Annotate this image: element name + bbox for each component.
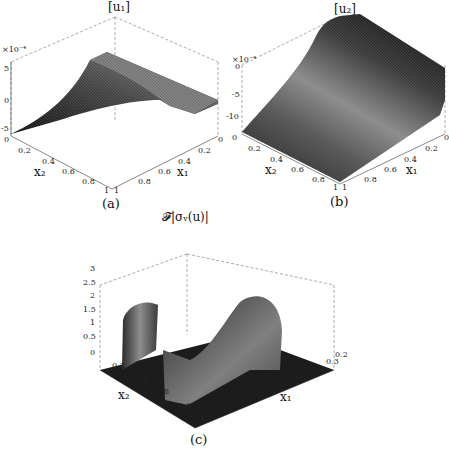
plot-c-x2-label: x₂ [118, 388, 130, 402]
plot-c-x1-tick: 0.4 [312, 365, 325, 374]
plot-c-z-tick: 2.5 [83, 278, 96, 287]
plot-a-x2-tick: 0.8 [82, 177, 95, 186]
plot-c-z-tick: 2 [90, 291, 95, 300]
plot-c-x1-tick: 0.7 [260, 386, 273, 395]
plot-b-x1-tick: 0.6 [384, 165, 397, 174]
plot-c-z-tick: 3 [90, 264, 95, 273]
plot-a-x1-tick: 0.6 [158, 167, 171, 176]
plot-c-title: 𝓕|σᵥ(u)| [162, 210, 209, 224]
plot-b-x2-label: x₂ [265, 163, 277, 177]
plot-a-x1-tick: 0.8 [138, 177, 151, 186]
plot-a-title: [u₁] [108, 0, 130, 14]
plot-c-x1-tick: 0.6 [280, 379, 293, 388]
plot-c-z-tick: 0.5 [83, 332, 96, 341]
plot-a-x1-tick: 0.2 [198, 146, 211, 155]
plot-c-x2-tick: 0.2 [112, 361, 125, 370]
plot-c: 𝓕|σᵥ(u)| 3 2.5 2 1.5 1 0.5 0 0.2 0.4 0.6… [90, 210, 360, 451]
plot-a-x2-tick: 0 [4, 135, 9, 144]
plot-c-x2-tick: 0.8 [178, 401, 191, 410]
plot-b-x2-tick: 0.8 [312, 175, 325, 184]
plot-b-z-tick: -10 [226, 112, 239, 121]
plot-a-z-tick: 5 [4, 64, 9, 73]
plot-a-z-tick: -5 [1, 124, 9, 133]
plot-c-canvas [90, 210, 360, 451]
plot-c-x1-tick: 1 [200, 415, 205, 424]
plot-a-scale: ×10⁻⁴ [2, 45, 26, 54]
plot-a: [u₁] ×10⁻⁴ 5 0 -5 0 0.2 0.4 0.6 0.8 1 0 … [0, 0, 225, 225]
plot-b: [u₂] ×10⁻⁴ 0 -5 -10 0 0.2 0.4 0.6 0.8 1 … [220, 0, 447, 225]
plot-a-x2-tick: 0.2 [18, 146, 31, 155]
plot-c-caption: (c) [190, 432, 207, 447]
plot-c-x1-tick: 0.5 [296, 372, 309, 381]
plot-b-title: [u₂] [334, 2, 356, 16]
plot-b-x1-tick: 0.2 [425, 144, 438, 153]
plot-b-z-tick: -5 [232, 90, 240, 99]
plot-b-x1-label: x₁ [406, 163, 418, 177]
plot-a-x2-tick: 0.6 [62, 167, 75, 176]
plot-c-z-tick: 1.5 [83, 305, 96, 314]
plot-b-x2-tick: 0.6 [291, 165, 304, 174]
plot-b-x1-tick: 1 [342, 183, 347, 192]
plot-b-z-tick: 0 [235, 62, 240, 71]
plot-c-x2-tick: 0.4 [134, 374, 147, 383]
plot-b-caption: (b) [330, 194, 348, 209]
plot-c-z-tick: 1 [90, 318, 95, 327]
plot-a-caption: (a) [102, 196, 120, 211]
plot-c-x1-tick: 0.9 [220, 400, 233, 409]
plot-c-x1-tick: 0.8 [240, 393, 253, 402]
plot-b-x2-tick: 1 [333, 183, 338, 192]
plot-b-x1-tick: 0 [444, 133, 449, 142]
plot-c-z-tick: 0 [90, 348, 95, 357]
plot-b-x1-tick: 0.8 [364, 175, 377, 184]
plot-a-x1-label: x₁ [177, 165, 189, 179]
plot-c-x1-label: x₁ [280, 390, 292, 404]
plot-a-canvas [0, 0, 225, 225]
plot-c-x2-tick: 0.6 [156, 387, 169, 396]
plot-c-x2-tick: 1 [190, 415, 195, 424]
plot-b-x2-tick: 0 [232, 133, 237, 142]
plot-a-x1-tick: 1 [114, 186, 119, 195]
plot-a-x2-tick: 1 [104, 186, 109, 195]
plot-c-x1-tick: 0.3 [326, 357, 339, 366]
plot-a-z-tick: 0 [4, 96, 9, 105]
plot-a-x2-label: x₂ [34, 165, 46, 179]
plot-b-x2-tick: 0.2 [248, 144, 261, 153]
